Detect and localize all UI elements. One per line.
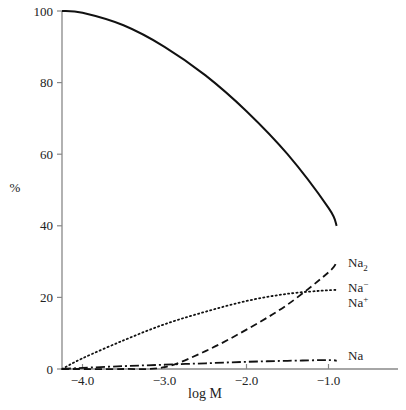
y-tick-label: 0 [47,362,54,377]
y-tick-label: 40 [40,218,53,233]
x-tick-label: −4.0 [71,373,95,388]
curve-label: Na2 [348,255,368,273]
curve-na [62,290,337,369]
curve-label: Na+ [348,294,368,310]
x-tick-label: −3.0 [153,373,177,388]
axes: 020406080100−4.0−3.0−2.0−1.0 [34,4,399,389]
curve-na [62,11,337,226]
curves [62,11,337,369]
y-tick-label: 100 [34,4,54,19]
curve-label: Na− [348,279,368,295]
y-tick-label: 20 [40,290,53,305]
y-axis-label: % [10,180,21,195]
curve-na [62,360,337,369]
x-tick-label: −2.0 [235,373,259,388]
x-axis-label: log M [188,386,222,401]
curve-labels: Na+Na2Na−Na [348,255,368,363]
y-tick-label: 60 [40,147,53,162]
speciation-chart: 020406080100−4.0−3.0−2.0−1.0 Na+Na2Na−Na… [0,0,406,410]
y-tick-label: 80 [40,75,53,90]
x-tick-label: −1.0 [317,373,341,388]
curve-label: Na [348,348,363,363]
curve-na2 [62,262,337,370]
